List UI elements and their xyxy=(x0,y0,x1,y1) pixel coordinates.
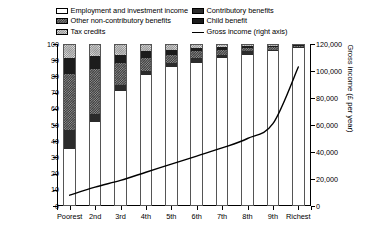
bar-segment xyxy=(115,91,126,205)
y-axis-right-tick-mark xyxy=(311,44,315,45)
bar-segment xyxy=(64,58,75,74)
x-axis-edge-tick-mark xyxy=(311,206,312,210)
bar-segment xyxy=(217,58,228,205)
y-axis-right-tick-label: 20,000 xyxy=(316,176,362,183)
legend-column-right: Contributory benefits Child benefit Gros… xyxy=(192,6,287,37)
solid-dark-swatch-icon xyxy=(192,8,204,14)
chart-container: Employment and investment income Other n… xyxy=(0,0,372,237)
legend-column-left: Employment and investment income Other n… xyxy=(56,6,188,37)
x-axis-tick-mark xyxy=(95,206,96,210)
legend-item-employment-and-investment-income: Employment and investment income xyxy=(56,6,188,16)
bar-segment xyxy=(90,45,101,56)
legend-item-tax-credits: Tax credits xyxy=(56,27,188,37)
x-axis-tick-mark xyxy=(222,206,223,210)
x-axis-tick-mark xyxy=(121,206,122,210)
bar-segment xyxy=(64,74,75,130)
bar-segment xyxy=(90,69,101,114)
x-axis-tick-mark xyxy=(171,206,172,210)
bar-9th[interactable] xyxy=(267,44,280,206)
y-axis-right-tick-label: 0 xyxy=(316,203,362,210)
bar-segment xyxy=(64,149,75,205)
y-axis-right-tick-mark xyxy=(311,152,315,153)
y-axis-right-tick-label: 80,000 xyxy=(316,95,362,102)
bar-6th[interactable] xyxy=(190,44,203,206)
bar-3rd[interactable] xyxy=(114,44,127,206)
legend-label: Tax credits xyxy=(71,28,106,36)
bar-segment xyxy=(141,75,152,205)
bar-segment xyxy=(90,114,101,122)
legend-item-child-benefit: Child benefit xyxy=(192,16,287,26)
bar-5th[interactable] xyxy=(165,44,178,206)
bar-segment xyxy=(90,56,101,69)
x-axis-tick-mark xyxy=(197,206,198,210)
bar-segment xyxy=(115,45,126,55)
legend-label: Employment and investment income xyxy=(71,7,189,15)
bar-2nd[interactable] xyxy=(89,44,102,206)
y-axis-right-tick-label: 40,000 xyxy=(316,149,362,156)
bar-8th[interactable] xyxy=(241,44,254,206)
x-axis-tick-mark xyxy=(298,206,299,210)
x-axis-tick-label-richest: Richest xyxy=(273,212,323,221)
x-axis-tick-mark xyxy=(70,206,71,210)
legend-item-contributory-benefits: Contributory benefits xyxy=(192,6,287,16)
bar-poorest[interactable] xyxy=(63,44,76,206)
legend-label: Other non-contributory benefits xyxy=(71,17,171,25)
plot-area xyxy=(57,44,311,206)
y-axis-right-title: Gross income (£ per year) xyxy=(346,14,355,164)
x-axis-edge-tick-mark xyxy=(57,206,58,210)
bar-segment xyxy=(166,55,177,63)
bar-4th[interactable] xyxy=(140,44,153,206)
x-axis-tick-mark xyxy=(248,206,249,210)
y-axis-right-tick-mark xyxy=(311,125,315,126)
y-axis-right-tick-mark xyxy=(311,179,315,180)
x-axis-tick-mark xyxy=(146,206,147,210)
y-axis-right-tick-mark xyxy=(311,98,315,99)
legend-item-gross-income: Gross income (right axis) xyxy=(192,27,287,37)
y-axis-right-tick-label: 60,000 xyxy=(316,122,362,129)
legend-item-other-non-contributory-benefits: Other non-contributory benefits xyxy=(56,16,188,26)
bar-segment xyxy=(242,55,253,205)
legend-label: Gross income (right axis) xyxy=(207,28,288,36)
y-axis-right-tick-label: 100,000 xyxy=(316,68,362,75)
solid-black-swatch-icon xyxy=(192,18,204,24)
bar-segment xyxy=(64,45,75,58)
bar-segment xyxy=(191,63,202,205)
bar-7th[interactable] xyxy=(216,44,229,206)
bar-segment xyxy=(90,122,101,205)
x-axis-tick-mark xyxy=(273,206,274,210)
bar-segment xyxy=(141,58,152,71)
chart-legend: Employment and investment income Other n… xyxy=(56,6,318,38)
bar-segment xyxy=(268,51,279,205)
line-swatch-icon xyxy=(192,29,204,35)
y-axis-right-tick-label: 120,000 xyxy=(316,41,362,48)
bar-segment xyxy=(115,63,126,85)
legend-label: Child benefit xyxy=(207,17,247,25)
bar-segment xyxy=(64,130,75,149)
bar-segment xyxy=(115,55,126,63)
y-axis-right-tick-mark xyxy=(311,71,315,72)
legend-label: Contributory benefits xyxy=(207,7,274,15)
bar-segment xyxy=(166,67,177,205)
bar-segment xyxy=(293,48,304,205)
bar-richest[interactable] xyxy=(292,44,305,206)
